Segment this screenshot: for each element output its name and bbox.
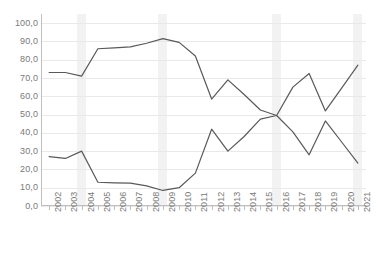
line-chart: 0,010,020,030,040,050,060,070,080,090,01… <box>0 0 376 262</box>
series-layer <box>41 14 366 206</box>
y-axis-tick-label: 40,0 <box>2 128 38 137</box>
x-axis-tick-label-2015: 2015 <box>264 192 274 212</box>
x-axis-tick-label-2017: 2017 <box>297 192 307 212</box>
x-axis-tick-label-2012: 2012 <box>216 192 226 212</box>
x-axis-tick-label-2004: 2004 <box>86 192 96 212</box>
x-axis-tick-label-2013: 2013 <box>232 192 242 212</box>
y-axis-tick-label: 10,0 <box>2 183 38 192</box>
x-axis-tick <box>65 206 66 210</box>
x-axis-tick-label-2016: 2016 <box>281 192 291 212</box>
x-axis-tick-label-2006: 2006 <box>118 192 128 212</box>
x-axis-tick <box>147 206 148 210</box>
y-axis-tick-label: 90,0 <box>2 37 38 46</box>
y-axis-tick-label: 50,0 <box>2 110 38 119</box>
y-axis-tick-label: 20,0 <box>2 165 38 174</box>
series-line-1 <box>49 39 358 163</box>
x-axis-tick-label-2005: 2005 <box>102 192 112 212</box>
x-axis: 2002200320042005200620072008200920102011… <box>41 206 366 262</box>
x-axis-tick-label-2010: 2010 <box>183 192 193 212</box>
y-axis-tick-label: 60,0 <box>2 92 38 101</box>
x-axis-tick <box>49 206 50 210</box>
x-axis-tick-label-2007: 2007 <box>134 192 144 212</box>
x-axis-tick-label-2020: 2020 <box>346 192 356 212</box>
y-axis-tick-label: 0,0 <box>2 202 38 211</box>
y-axis-tick-label: 80,0 <box>2 55 38 64</box>
x-axis-tick <box>82 206 83 210</box>
x-axis-tick-label-2018: 2018 <box>313 192 323 212</box>
x-axis-tick <box>179 206 180 210</box>
y-axis-tick-label: 30,0 <box>2 147 38 156</box>
x-axis-tick-label-2008: 2008 <box>151 192 161 212</box>
x-axis-tick-label-2009: 2009 <box>167 192 177 212</box>
x-axis-tick <box>342 206 343 210</box>
x-axis-tick <box>114 206 115 210</box>
x-axis-tick <box>130 206 131 210</box>
x-axis-tick <box>195 206 196 210</box>
y-axis: 0,010,020,030,040,050,060,070,080,090,01… <box>0 14 38 206</box>
x-axis-tick <box>163 206 164 210</box>
x-axis-tick <box>277 206 278 210</box>
x-axis-tick-label-2021: 2021 <box>362 192 372 212</box>
x-axis-tick <box>325 206 326 210</box>
series-line-2 <box>49 65 358 190</box>
x-axis-tick <box>358 206 359 210</box>
x-axis-tick <box>244 206 245 210</box>
x-axis-tick <box>260 206 261 210</box>
x-axis-tick <box>309 206 310 210</box>
plot-area <box>41 14 366 206</box>
x-axis-tick <box>293 206 294 210</box>
x-axis-tick-label-2003: 2003 <box>69 192 79 212</box>
x-axis-tick-label-2019: 2019 <box>329 192 339 212</box>
y-axis-tick-label: 70,0 <box>2 74 38 83</box>
x-axis-tick <box>98 206 99 210</box>
y-axis-tick-label: 100,0 <box>2 19 38 28</box>
x-axis-tick <box>212 206 213 210</box>
x-axis-tick <box>228 206 229 210</box>
x-axis-tick-label-2014: 2014 <box>248 192 258 212</box>
x-axis-tick-label-2002: 2002 <box>53 192 63 212</box>
x-axis-tick-label-2011: 2011 <box>199 192 209 212</box>
